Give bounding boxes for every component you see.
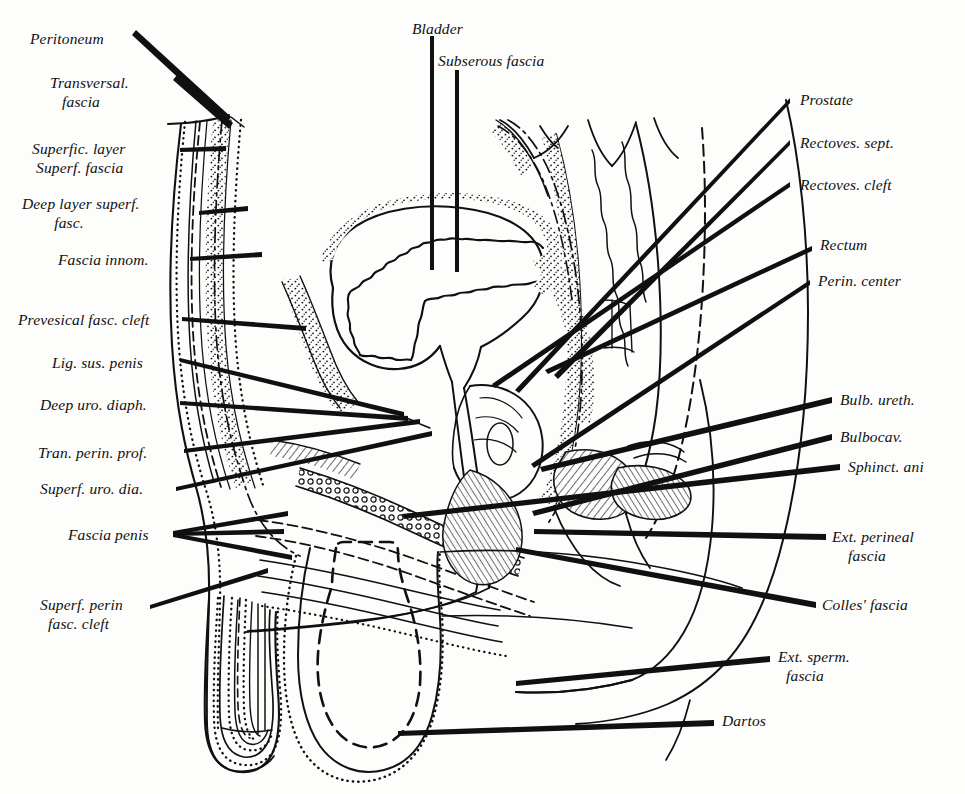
label-tran-perin-prof: Tran. perin. prof.: [38, 444, 147, 463]
label-deep-uro-diaph: Deep uro. diaph.: [40, 396, 147, 415]
label-superfic-layer: Superfic. layer Superf. fascia: [32, 140, 126, 178]
label-fascia-penis: Fascia penis: [68, 526, 149, 545]
label-rectum: Rectum: [820, 236, 867, 255]
label-superf-uro-dia: Superf. uro. dia.: [40, 480, 143, 499]
label-rectoves-cleft: Rectoves. cleft: [800, 176, 892, 195]
label-ext-perineal-fascia: Ext. perineal fascia: [832, 528, 914, 566]
anatomical-plate: Peritoneum Transversal. fascia Superfic.…: [0, 0, 965, 794]
label-bladder: Bladder: [412, 20, 463, 39]
label-peritoneum: Peritoneum: [30, 30, 104, 49]
label-bulb-ureth: Bulb. ureth.: [840, 391, 915, 410]
label-transversal-fascia: Transversal. fascia: [50, 74, 129, 112]
label-deep-layer-superf: Deep layer superf. fasc.: [22, 195, 140, 233]
label-ext-sperm-fascia: Ext. sperm. fascia: [778, 648, 850, 686]
transversalis-fascia-dashdot: [215, 120, 300, 556]
label-fascia-innom: Fascia innom.: [58, 251, 149, 270]
urogenital-diaphragm: [256, 440, 691, 616]
label-sphinct-ani: Sphinct. ani: [848, 458, 924, 477]
label-subserous-fascia: Subserous fascia: [438, 52, 544, 71]
label-perin-center: Perin. center: [818, 272, 901, 291]
label-dartos: Dartos: [722, 712, 766, 731]
label-lig-sus-penis: Lig. sus. penis: [52, 354, 143, 373]
label-rectoves-sept: Rectoves. sept.: [800, 134, 894, 153]
bladder: [282, 193, 594, 424]
abdominal-fascia-stipple: [206, 120, 252, 488]
label-colles-fascia: Colles' fascia: [822, 596, 908, 615]
label-prostate: Prostate: [800, 91, 853, 110]
label-superf-perin-cleft: Superf. perin fasc. cleft: [40, 596, 123, 634]
label-prevesical-cleft: Prevesical fasc. cleft: [18, 311, 149, 330]
label-bulbocav: Bulbocav.: [840, 428, 903, 447]
